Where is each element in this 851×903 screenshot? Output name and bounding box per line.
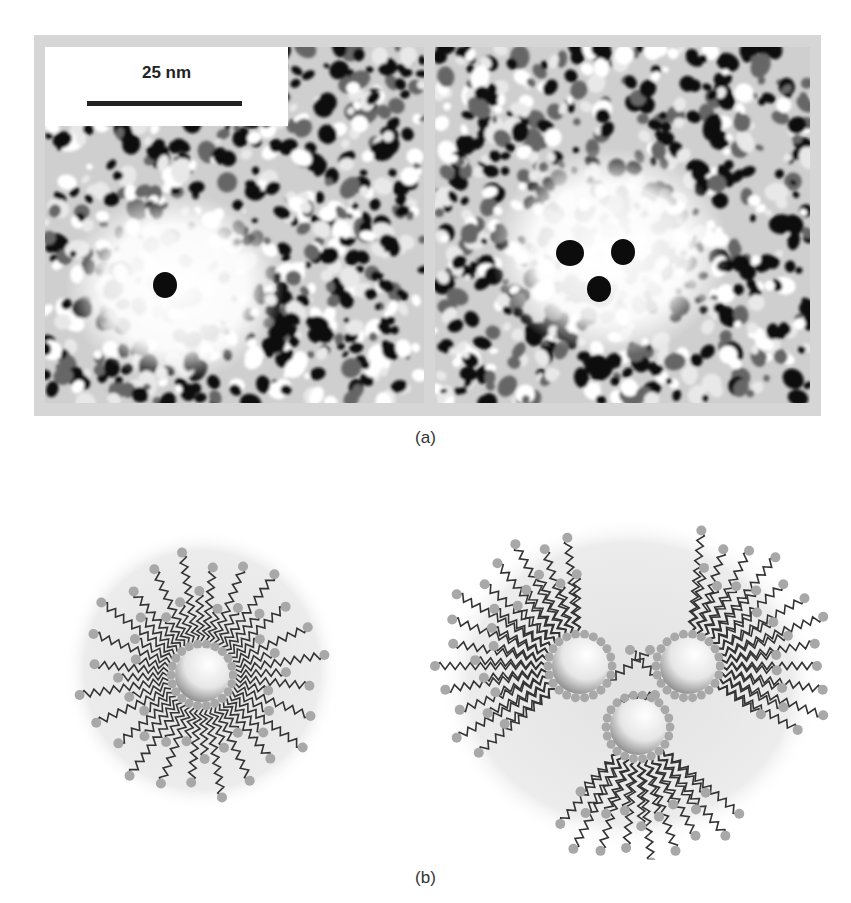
tem-image-right bbox=[435, 47, 810, 403]
micelle-diagram-single bbox=[60, 520, 350, 820]
tem-noise-texture bbox=[435, 47, 810, 403]
caption-b: (b) bbox=[0, 868, 851, 888]
tem-image-left: 25 nm bbox=[45, 47, 424, 403]
tem-image-frame: 25 nm bbox=[34, 35, 821, 416]
scale-bar bbox=[87, 101, 242, 106]
scale-bar-box: 25 nm bbox=[45, 47, 288, 126]
caption-a: (a) bbox=[0, 428, 851, 448]
micelle-diagram-triple bbox=[430, 500, 830, 860]
scale-bar-label: 25 nm bbox=[45, 63, 288, 83]
